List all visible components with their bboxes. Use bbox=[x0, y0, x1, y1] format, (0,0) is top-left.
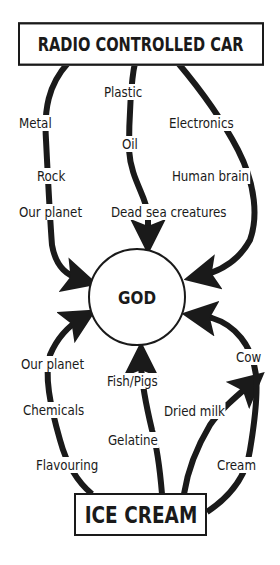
label-fish-pigs: Fish/Pigs bbox=[106, 373, 159, 389]
label-cream: Cream bbox=[216, 457, 257, 473]
node-radio-controlled-car: RADIO CONTROLLED CAR bbox=[18, 22, 264, 66]
node-label-radio-controlled-car: RADIO CONTROLLED CAR bbox=[38, 33, 244, 56]
label-oil: Oil bbox=[121, 136, 139, 152]
label-electronics: Electronics bbox=[168, 115, 235, 131]
label-cow: Cow bbox=[235, 349, 262, 365]
label-our-planet-bottom: Our planet bbox=[20, 356, 85, 372]
label-flavouring: Flavouring bbox=[35, 457, 99, 473]
label-chemicals: Chemicals bbox=[22, 402, 85, 418]
node-label-ice-cream: ICE CREAM bbox=[84, 501, 197, 527]
label-rock: Rock bbox=[36, 168, 66, 184]
label-our-planet-top: Our planet bbox=[18, 204, 83, 220]
label-dead-sea-creatures: Dead sea creatures bbox=[110, 204, 227, 220]
node-god: GOD bbox=[88, 248, 186, 346]
label-gelatine: Gelatine bbox=[107, 432, 159, 448]
label-human-brain: Human brain bbox=[171, 168, 250, 184]
node-label-god: GOD bbox=[118, 286, 156, 308]
node-ice-cream: ICE CREAM bbox=[74, 493, 207, 536]
label-plastic: Plastic bbox=[103, 84, 143, 100]
label-dried-milk: Dried milk bbox=[163, 403, 226, 419]
label-metal: Metal bbox=[18, 115, 53, 131]
